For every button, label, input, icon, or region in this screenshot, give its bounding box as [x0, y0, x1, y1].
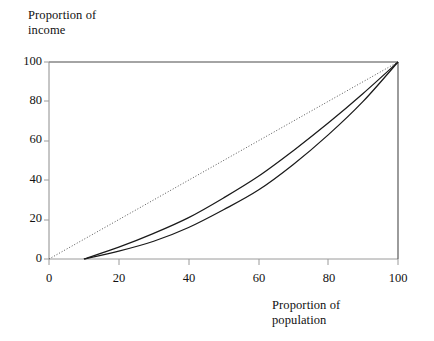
y-tick-marks	[44, 62, 49, 259]
lorenz-curve-lower	[84, 62, 398, 259]
line-of-equality	[49, 62, 398, 259]
x-tick-marks	[49, 259, 398, 265]
lorenz-curve-chart: Proportion of income Proportion of popul…	[0, 0, 434, 341]
lorenz-curve-upper	[84, 62, 398, 259]
plot-area	[0, 0, 434, 341]
